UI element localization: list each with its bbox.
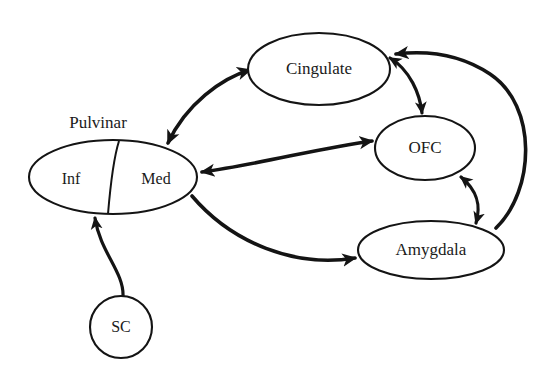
edge-sc-pulvinar [95,218,123,296]
edge-pulvinar-ofc [202,141,372,172]
diagram-canvas: Cingulate OFC Amygdala Inf Med SC [0,0,547,371]
group-labels-layer: Pulvinar [69,113,127,132]
ofc-label: OFC [408,138,441,157]
amygdala-label: Amygdala [396,240,467,259]
pulvinar-ellipse [29,140,197,214]
pulvinar-med-label: Med [141,170,170,187]
node-amygdala[interactable]: Amygdala [358,221,504,279]
edge-ofc-amygdala [461,177,478,223]
node-cingulate[interactable]: Cingulate [248,33,390,105]
pulvinar-inf-label: Inf [62,170,81,187]
node-sc[interactable]: SC [90,296,152,358]
sc-label: SC [111,318,131,335]
edge-cingulate-ofc [390,58,422,113]
connectivity-diagram: Cingulate OFC Amygdala Inf Med SC [0,0,547,371]
node-ofc[interactable]: OFC [375,116,475,180]
nodes-layer: Cingulate OFC Amygdala Inf Med SC [29,33,504,358]
pulvinar-group-label: Pulvinar [69,113,127,132]
cingulate-label: Cingulate [286,59,352,78]
edge-pulvinar-amygdala [192,196,355,260]
node-pulvinar[interactable]: Inf Med [29,140,197,214]
edge-pulvinar-cingulate [168,70,250,143]
